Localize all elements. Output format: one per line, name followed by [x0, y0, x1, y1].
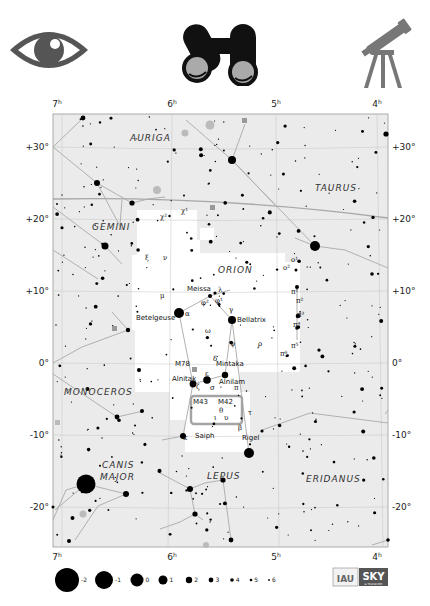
- star: [371, 305, 372, 306]
- star: [386, 538, 390, 542]
- star: [278, 188, 279, 189]
- star: [114, 146, 115, 147]
- legend-magnitude-label: 3: [215, 576, 219, 583]
- star: [137, 368, 141, 372]
- star: [216, 144, 217, 145]
- greek-label: γ: [229, 306, 233, 314]
- star: [377, 273, 379, 275]
- star: [67, 539, 71, 543]
- star: [222, 292, 225, 295]
- star: [273, 428, 274, 429]
- star: [139, 379, 140, 380]
- star-chart: 7h7h6h6h5h5h4h4h +30°+30°+20°+20°+10°+10…: [0, 0, 430, 606]
- star: [199, 153, 203, 157]
- star: [265, 396, 266, 397]
- star: [209, 240, 213, 244]
- constellation-label: MAJOR: [100, 472, 135, 482]
- star: [79, 211, 80, 212]
- star: [244, 448, 254, 458]
- greek-label: θ: [219, 407, 223, 415]
- star: [207, 486, 208, 487]
- star: [362, 400, 363, 401]
- star: [206, 336, 209, 339]
- greek-label: φ¹: [215, 297, 223, 305]
- star: [297, 229, 301, 233]
- constellation-label: AURIGA: [129, 133, 171, 143]
- star: [242, 208, 244, 210]
- star: [302, 450, 304, 452]
- greek-label: ε: [205, 370, 209, 378]
- dec-tick-label: +30°: [26, 142, 50, 152]
- star: [52, 506, 55, 509]
- star: [308, 327, 309, 328]
- star: [55, 212, 59, 216]
- star-label: Mintaka: [216, 360, 244, 368]
- star: [217, 214, 219, 216]
- star: [368, 117, 369, 118]
- star: [353, 410, 356, 413]
- star: [60, 456, 62, 458]
- greek-label: π¹: [291, 288, 299, 296]
- star: [61, 446, 62, 447]
- star: [129, 200, 134, 205]
- constellation-label: CANIS: [102, 460, 135, 470]
- magnitude-legend: -2-10123456: [55, 568, 276, 592]
- star: [380, 307, 381, 308]
- star: [249, 145, 250, 146]
- star: [118, 250, 119, 251]
- star: [295, 160, 296, 161]
- star: [273, 326, 274, 327]
- star: [241, 194, 244, 197]
- greek-label: ι: [214, 414, 217, 422]
- legend-magnitude-label: -1: [115, 576, 121, 583]
- legend-star-symbol: [95, 571, 113, 589]
- star: [157, 469, 161, 473]
- star: [295, 269, 298, 272]
- star: [84, 206, 85, 207]
- star: [58, 294, 60, 296]
- star: [355, 343, 356, 344]
- star: [335, 130, 336, 131]
- star: [99, 465, 101, 467]
- star: [268, 210, 272, 214]
- star: [98, 255, 100, 257]
- dec-tick-label: +10°: [392, 286, 416, 296]
- star: [136, 311, 138, 313]
- dec-tick-label: -20°: [392, 502, 411, 512]
- star: [354, 458, 355, 459]
- star: [61, 194, 62, 195]
- legend-magnitude-label: 4: [236, 576, 240, 583]
- star: [60, 454, 61, 455]
- star: [218, 139, 219, 140]
- star: [104, 270, 105, 271]
- star: [321, 444, 322, 445]
- star: [276, 236, 277, 237]
- legend-star-symbol: [250, 579, 253, 582]
- dec-tick-label: +20°: [392, 214, 416, 224]
- star: [327, 370, 329, 372]
- star-label: Meissa: [187, 285, 211, 293]
- star: [61, 452, 62, 453]
- star: [260, 429, 263, 432]
- star: [192, 511, 197, 516]
- ra-tick-label: 4h: [372, 98, 382, 109]
- star: [358, 158, 359, 159]
- star: [223, 501, 227, 505]
- svg-text:& TELESCOPE: & TELESCOPE: [365, 583, 383, 586]
- star: [208, 294, 212, 298]
- star: [206, 512, 208, 514]
- star: [286, 443, 287, 444]
- star: [95, 249, 96, 250]
- star: [271, 337, 272, 338]
- legend-magnitude-label: 5: [254, 576, 258, 583]
- legend-magnitude-label: 2: [194, 576, 198, 583]
- legend-magnitude-label: 6: [272, 576, 276, 583]
- star: [300, 434, 301, 435]
- greek-label: μ: [160, 292, 165, 300]
- star: [282, 172, 285, 175]
- star: [157, 220, 159, 222]
- star: [212, 466, 214, 468]
- star-label: Bellatrix: [237, 316, 266, 324]
- greek-label: ο²: [283, 264, 290, 272]
- star: [263, 275, 264, 276]
